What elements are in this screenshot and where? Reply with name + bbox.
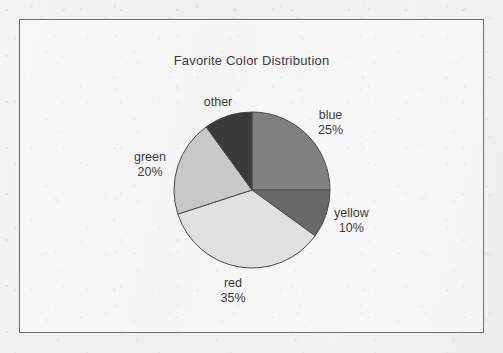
pie-slices xyxy=(174,112,330,268)
slice-label-red-name: red xyxy=(207,276,259,291)
slice-label-blue-name: blue xyxy=(318,108,343,123)
slice-label-blue-percent: 25% xyxy=(318,123,343,138)
slice-label-red-percent: 35% xyxy=(207,291,259,306)
slice-label-green: green 20% xyxy=(124,150,176,180)
slice-label-green-percent: 20% xyxy=(124,165,176,180)
slice-label-other: other xyxy=(192,95,244,110)
slice-label-blue: blue 25% xyxy=(318,108,343,138)
slice-label-green-name: green xyxy=(124,150,176,165)
slice-label-yellow-percent: 10% xyxy=(334,221,369,236)
slice-label-yellow: yellow 10% xyxy=(334,206,369,236)
slice-label-yellow-name: yellow xyxy=(334,206,369,221)
slice-label-other-name: other xyxy=(192,95,244,110)
slice-label-red: red 35% xyxy=(207,276,259,306)
